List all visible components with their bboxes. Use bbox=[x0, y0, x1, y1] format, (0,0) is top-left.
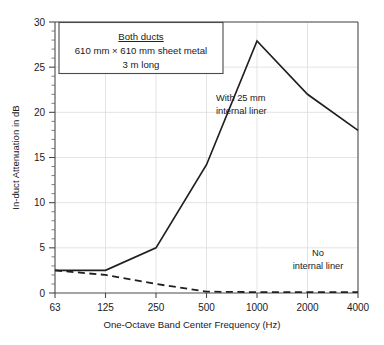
y-tick-label: 25 bbox=[34, 62, 46, 73]
y-tick-label: 10 bbox=[34, 197, 46, 208]
y-major-ticks bbox=[49, 22, 55, 293]
x-tick-label: 63 bbox=[49, 302, 61, 313]
y-tick-labels: 0 5 10 15 20 25 30 bbox=[34, 17, 46, 299]
x-tick-label: 2000 bbox=[296, 302, 319, 313]
x-axis-title: One-Octave Band Center Frequency (Hz) bbox=[103, 319, 280, 330]
x-tick-label: 500 bbox=[198, 302, 215, 313]
y-tick-label: 5 bbox=[39, 242, 45, 253]
y-tick-label: 30 bbox=[34, 17, 46, 28]
info-textbox-title: Both ducts bbox=[118, 31, 164, 42]
y-tick-label: 0 bbox=[39, 288, 45, 299]
x-tick-label: 250 bbox=[148, 302, 165, 313]
y-tick-label: 20 bbox=[34, 107, 46, 118]
annot-no-liner-line1: No bbox=[312, 248, 324, 258]
chart-svg: 0 5 10 15 20 25 30 63 125 250 500 1000 2… bbox=[0, 0, 384, 345]
info-textbox-line2: 610 mm × 610 mm sheet metal bbox=[75, 45, 208, 56]
x-tick-label: 1000 bbox=[246, 302, 269, 313]
annot-with-liner-line2: internal liner bbox=[216, 106, 267, 116]
x-tick-label: 4000 bbox=[347, 302, 370, 313]
y-tick-label: 15 bbox=[34, 152, 46, 163]
y-axis-title: In-duct Attenuation in dB bbox=[10, 105, 21, 210]
x-major-ticks bbox=[55, 293, 358, 298]
info-textbox-line3: 3 m long bbox=[123, 59, 160, 70]
annot-with-liner-line1: With 25 mm bbox=[216, 93, 266, 103]
x-tick-label: 125 bbox=[97, 302, 114, 313]
info-textbox: Both ducts 610 mm × 610 mm sheet metal 3… bbox=[59, 23, 223, 74]
x-tick-labels: 63 125 250 500 1000 2000 4000 bbox=[49, 302, 369, 313]
chart-figure: 0 5 10 15 20 25 30 63 125 250 500 1000 2… bbox=[0, 0, 384, 345]
annot-no-liner-line2: internal liner bbox=[293, 261, 344, 271]
